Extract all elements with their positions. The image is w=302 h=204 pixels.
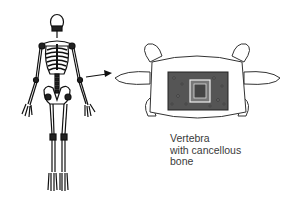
- skeleton-illustration: [22, 15, 95, 192]
- caption-line-3: bone: [170, 156, 241, 168]
- caption-line-1: Vertebra: [170, 133, 241, 145]
- arrow-connector: [86, 70, 112, 77]
- vertebra-illustration: [115, 44, 280, 118]
- diagram-canvas: Vertebra with cancellous bone: [0, 0, 302, 204]
- vertebra-caption: Vertebra with cancellous bone: [170, 133, 241, 168]
